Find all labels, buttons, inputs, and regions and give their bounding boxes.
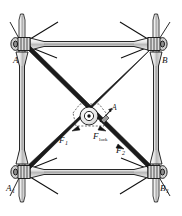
figure-root: A B A1 B1 A F1 Flock F2 — [0, 0, 182, 216]
joint-top-left — [11, 38, 30, 51]
joint-top-right — [148, 38, 167, 51]
label-node-b: B — [162, 55, 168, 65]
joint-bl-bearing-inner — [14, 169, 18, 175]
frame-force-diagram: A B A1 B1 A F1 Flock F2 — [0, 0, 182, 216]
label-node-a: A — [12, 55, 19, 65]
joint-tl-bearing-inner — [14, 41, 18, 47]
joint-bottom-right — [148, 166, 167, 179]
joint-tr-bearing-inner — [161, 41, 165, 47]
hub-center-dot — [87, 114, 90, 117]
joint-br-bearing-inner — [161, 169, 165, 175]
label-hub-a: A — [111, 103, 117, 112]
joint-bottom-left — [11, 166, 30, 179]
